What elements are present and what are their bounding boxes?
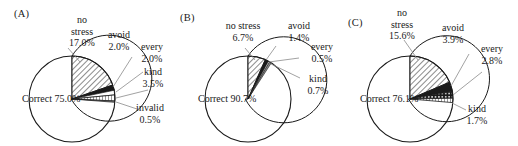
label-no-stress: no stress 15.6% bbox=[378, 7, 426, 42]
label-avoid: avoid 3.9% bbox=[432, 22, 474, 45]
three-pie-chart-figure: (A) bbox=[0, 0, 518, 146]
label-kind: kind 3.5% bbox=[132, 66, 174, 89]
panel-b: (B) bbox=[170, 0, 345, 146]
label-avoid: avoid 1.4% bbox=[278, 20, 320, 43]
label-every: every 2.8% bbox=[470, 43, 514, 66]
label-every: every 0.5% bbox=[300, 41, 344, 64]
label-kind: kind 1.7% bbox=[456, 103, 498, 126]
label-kind: kind 0.7% bbox=[297, 73, 339, 96]
panel-a: (A) bbox=[0, 0, 175, 146]
label-invalid: invalid 0.5% bbox=[126, 102, 174, 125]
label-every: every 2.0% bbox=[130, 41, 174, 64]
label-correct: Correct 75.0% bbox=[22, 93, 72, 105]
label-correct: Correct 76.1% bbox=[360, 93, 412, 105]
panel-c: (C) bbox=[342, 0, 518, 146]
label-correct: Correct 90.7% bbox=[198, 93, 250, 105]
label-no-stress: no stress 6.7% bbox=[210, 20, 276, 43]
